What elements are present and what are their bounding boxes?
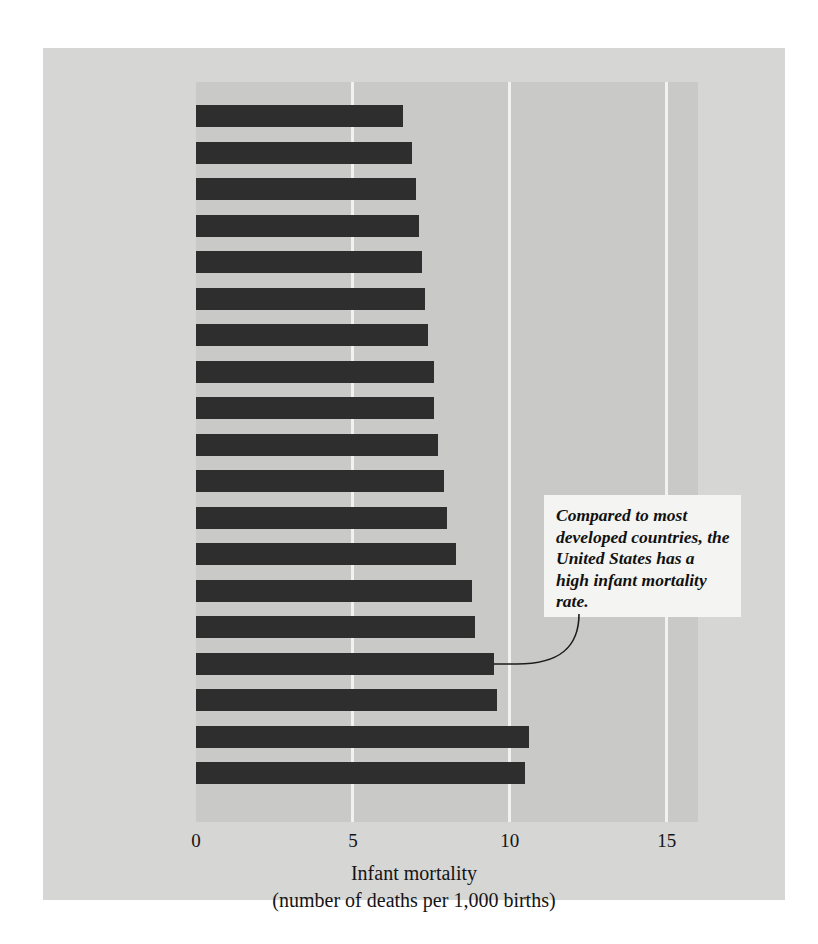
bar-australia (196, 251, 422, 273)
bar-denmark (196, 361, 434, 383)
bar-row: Australia (196, 244, 698, 281)
bar-row: Netherlands (196, 135, 698, 172)
x-tick-15: 15 (657, 830, 676, 852)
bar-belgium (196, 616, 475, 638)
bar-row: United States (196, 646, 698, 683)
bar-netherlands (196, 142, 412, 164)
bar-row: Spain (196, 427, 698, 464)
bar-new-zealand (196, 543, 456, 565)
bar-israel (196, 689, 497, 711)
bar-ireland (196, 470, 444, 492)
bar-row: Portugal (196, 719, 698, 756)
bar-row: France (196, 281, 698, 318)
bar-row: Denmark (196, 354, 698, 391)
plot-area: CanadaNetherlandsSwitzerlandGermanyAustr… (196, 82, 698, 822)
annotation-callout: Compared to most developed countries, th… (544, 495, 741, 617)
bar-germany (196, 215, 419, 237)
bar-italy (196, 580, 472, 602)
bar-row: Cuba (196, 755, 698, 792)
bar-portugal (196, 726, 529, 748)
annotation-text: Compared to most developed countries, th… (556, 505, 732, 613)
bar-great-britain (196, 324, 428, 346)
bar-spain (196, 434, 438, 456)
x-axis-title: Infant mortality (number of deaths per 1… (43, 860, 785, 914)
bar-row: Great Britain (196, 317, 698, 354)
bar-france (196, 288, 425, 310)
x-axis-title-line1: Infant mortality (351, 862, 477, 884)
bar-row: Switzerland (196, 171, 698, 208)
bar-switzerland (196, 178, 416, 200)
bar-row: Germany (196, 208, 698, 245)
bar-row: Israel (196, 682, 698, 719)
bar-series: CanadaNetherlandsSwitzerlandGermanyAustr… (196, 82, 698, 822)
bar-cuba (196, 762, 525, 784)
bar-united-states (196, 653, 494, 675)
x-tick-10: 10 (500, 830, 519, 852)
bar-row: Austria (196, 390, 698, 427)
bar-austria (196, 397, 434, 419)
x-axis-title-line2: (number of deaths per 1,000 births) (43, 887, 785, 914)
bar-row: Canada (196, 98, 698, 135)
bar-greece (196, 507, 447, 529)
chart-figure: CanadaNetherlandsSwitzerlandGermanyAustr… (43, 48, 785, 900)
x-tick-0: 0 (191, 830, 201, 852)
x-tick-5: 5 (348, 830, 358, 852)
bar-canada (196, 105, 403, 127)
